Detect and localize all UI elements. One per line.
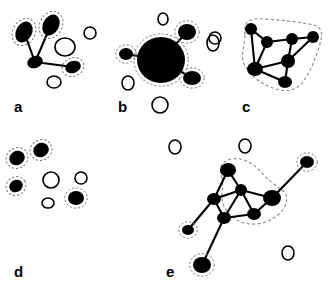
filled-node: [278, 76, 292, 88]
panel-label-d: d: [14, 263, 23, 280]
panel-label-c: c: [242, 98, 250, 115]
filled-node: [193, 257, 211, 273]
network-panels-figure: abcde: [0, 0, 330, 293]
filled-node: [281, 54, 295, 68]
panel-label-e: e: [166, 263, 174, 280]
filled-node: [217, 212, 231, 224]
filled-node: [207, 193, 221, 205]
figure-container: abcde: [0, 0, 330, 293]
filled-node: [119, 48, 133, 60]
filled-node: [183, 71, 201, 85]
filled-node: [137, 37, 185, 83]
filled-node: [220, 163, 236, 177]
filled-node: [68, 191, 84, 205]
filled-node: [300, 156, 314, 168]
filled-node: [235, 184, 247, 196]
panel-label-a: a: [14, 98, 23, 115]
filled-node: [261, 36, 273, 48]
filled-node: [245, 23, 257, 35]
filled-node: [286, 33, 298, 45]
filled-node: [178, 24, 196, 40]
filled-node: [263, 190, 281, 206]
filled-node: [307, 31, 319, 43]
panel-label-b: b: [118, 98, 127, 115]
filled-node: [247, 62, 263, 76]
filled-node: [182, 225, 194, 235]
filled-node: [247, 208, 261, 220]
